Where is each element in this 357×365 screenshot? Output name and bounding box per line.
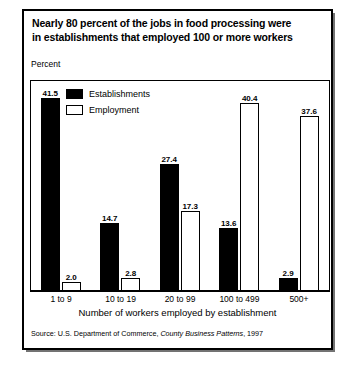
x-tick-label-10-to-19: 10 to 19 <box>105 294 136 304</box>
bar-value-label: 2.0 <box>66 273 77 282</box>
bar-establishments-20-to-99: 27.4 <box>160 164 179 292</box>
source-note: Source: U.S. Department of Commerce, Cou… <box>31 329 263 338</box>
legend-swatch-establishments-icon <box>66 89 83 99</box>
bar-value-label: 41.5 <box>42 89 58 98</box>
bar-value-label: 2.8 <box>125 269 136 278</box>
legend-swatch-employment-icon <box>66 105 83 115</box>
legend-label-establishments: Establishments <box>89 87 150 101</box>
bar-employment-500+: 37.6 <box>300 116 319 291</box>
bar-value-label: 13.6 <box>221 219 237 228</box>
bar-value-label: 2.9 <box>283 269 294 278</box>
chart-legend: Establishments Employment <box>66 87 150 119</box>
x-tick-label-1-to-9: 1 to 9 <box>50 294 71 304</box>
bar-value-label: 40.4 <box>242 94 258 103</box>
bar-establishments-100-to-499: 13.6 <box>219 228 238 291</box>
bar-establishments-10-to-19: 14.7 <box>100 223 119 291</box>
bar-employment-100-to-499: 40.4 <box>240 103 259 291</box>
x-axis-line <box>31 290 329 291</box>
source-publication: County Business Patterns <box>160 329 243 338</box>
chart-title-line-2: in establishments that employed 100 or m… <box>32 31 328 45</box>
plot-area: 41.52.014.72.827.417.313.640.42.937.6 Es… <box>30 80 330 292</box>
chart-title-line-1: Nearly 80 percent of the jobs in food pr… <box>32 17 328 31</box>
bar-value-label: 37.6 <box>301 107 317 116</box>
legend-label-employment: Employment <box>89 103 139 117</box>
x-tick-label-20-to-99: 20 to 99 <box>165 294 196 304</box>
source-prefix: Source: U.S. Department of Commerce, <box>31 329 160 338</box>
bar-value-label: 27.4 <box>161 155 177 164</box>
y-axis-label: Percent <box>31 59 60 69</box>
x-axis-title: Number of workers employed by establishm… <box>24 307 331 318</box>
legend-item-employment: Employment <box>66 103 150 117</box>
bar-employment-20-to-99: 17.3 <box>181 211 200 292</box>
bar-value-label: 14.7 <box>102 214 118 223</box>
figure-container: Nearly 80 percent of the jobs in food pr… <box>22 9 333 350</box>
x-tick-label-100-to-499: 100 to 499 <box>219 294 259 304</box>
chart-title: Nearly 80 percent of the jobs in food pr… <box>32 17 328 44</box>
x-tick-label-500+: 500+ <box>289 294 308 304</box>
legend-item-establishments: Establishments <box>66 87 150 101</box>
bar-establishments-1-to-9: 41.5 <box>41 98 60 291</box>
bar-value-label: 17.3 <box>182 202 198 211</box>
source-suffix: , 1997 <box>243 329 263 338</box>
